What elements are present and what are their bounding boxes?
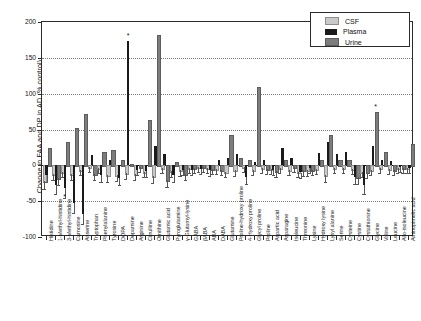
x-tick-mark xyxy=(173,236,174,240)
x-tick-mark xyxy=(73,236,74,240)
x-tick-label: Cystine xyxy=(356,223,362,241)
x-tick-mark xyxy=(118,236,119,240)
legend-swatch-plasma xyxy=(325,29,337,35)
bar-group xyxy=(42,22,414,235)
y-tick-mark xyxy=(38,237,42,238)
x-tick-label: Isoleucine xyxy=(293,217,299,241)
x-tick-label: Glutamine xyxy=(229,216,235,241)
legend-item-plasma: Plasma xyxy=(325,27,409,37)
y-tick-label: -50 xyxy=(0,197,36,204)
x-tick-label: 1-Methyl-histidine xyxy=(57,199,63,241)
x-tick-mark xyxy=(336,236,337,240)
x-tick-label: Dopamine xyxy=(129,216,135,241)
x-tick-label: Lysyl alanine xyxy=(329,210,335,241)
legend-item-urine: Urine xyxy=(325,37,409,47)
x-tick-mark xyxy=(46,236,47,240)
x-tick-mark xyxy=(64,236,65,240)
x-tick-label: Aspartic acid xyxy=(274,210,280,241)
x-tick-label: Cystathionine xyxy=(365,208,371,241)
x-tick-mark xyxy=(100,236,101,240)
bar-urine xyxy=(411,144,415,168)
x-tick-label: βABA xyxy=(202,227,208,241)
x-tick-label: Asparagine xyxy=(283,214,289,241)
x-tick-label: Tyrosine xyxy=(111,221,117,241)
legend-item-csf: CSF xyxy=(325,16,409,26)
x-tick-label: 3-Methyl-histidine xyxy=(66,199,72,241)
x-tick-label: GABA xyxy=(193,226,199,241)
x-tick-mark xyxy=(236,236,237,240)
x-tick-mark xyxy=(372,236,373,240)
x-tick-mark xyxy=(327,236,328,240)
x-tick-mark xyxy=(218,236,219,240)
x-tick-mark xyxy=(300,236,301,240)
x-tick-mark xyxy=(209,236,210,240)
x-tick-label: Arginine xyxy=(138,221,144,241)
x-tick-label: Anserine xyxy=(84,220,90,241)
x-tick-mark xyxy=(109,236,110,240)
x-tick-label: Carnosine xyxy=(75,216,81,241)
x-tick-label: ABA xyxy=(211,230,217,241)
x-tick-mark xyxy=(91,236,92,240)
x-tick-mark xyxy=(345,236,346,240)
x-tick-label: Pyroglutamine xyxy=(175,206,181,241)
x-tick-label: Citrulline xyxy=(147,220,153,241)
x-tick-label: Ornithine xyxy=(156,219,162,241)
x-tick-label: Proline xyxy=(265,224,271,241)
x-tick-label: Proline-hydroxy proline xyxy=(238,186,244,241)
x-tick-label: Hydroxy lysine xyxy=(320,206,326,241)
x-tick-mark xyxy=(191,236,192,240)
x-tick-label: Lysine xyxy=(311,226,317,241)
x-tick-label: γ-Glutamyl-lysine xyxy=(184,200,190,241)
x-tick-mark xyxy=(354,236,355,240)
x-tick-mark xyxy=(55,236,56,240)
legend-label-csf: CSF xyxy=(345,18,359,25)
x-tick-mark xyxy=(291,236,292,240)
x-tick-label: Valine xyxy=(383,226,389,241)
x-tick-label: 4-Hydroxy proline xyxy=(247,199,253,241)
x-tick-label: DOPA xyxy=(120,226,126,241)
y-tick-label: 50 xyxy=(0,125,36,132)
x-tick-mark xyxy=(245,236,246,240)
x-tick-mark xyxy=(318,236,319,240)
x-tick-label: Glutamic acid xyxy=(165,208,171,241)
chart-legend: CSF Plasma Urine xyxy=(310,12,410,47)
x-tick-label: Glycyl proline xyxy=(256,209,262,241)
legend-swatch-urine xyxy=(325,38,339,46)
x-tick-label: Aminopimelic acid xyxy=(410,198,416,241)
y-tick-label: 150 xyxy=(0,53,36,60)
x-tick-mark xyxy=(200,236,201,240)
x-tick-label: Threonine xyxy=(302,217,308,241)
x-tick-label: Cysteine xyxy=(347,220,353,241)
x-tick-label: Phenylalanine xyxy=(102,207,108,241)
legend-swatch-csf xyxy=(325,17,339,25)
x-tick-label: Tryptophan xyxy=(93,214,99,241)
significance-marker: * xyxy=(127,32,130,39)
legend-label-plasma: Plasma xyxy=(343,28,366,35)
x-tick-mark xyxy=(227,236,228,240)
x-tick-label: Glycine xyxy=(374,223,380,241)
x-tick-mark xyxy=(182,236,183,240)
significance-marker: * xyxy=(374,103,377,110)
y-tick-label: 100 xyxy=(0,89,36,96)
error-bar-cap xyxy=(408,173,411,174)
chart-figure: Change in FAA and DP in AD (% control) *… xyxy=(0,0,421,321)
x-tick-label: Leucine xyxy=(392,222,398,241)
legend-label-urine: Urine xyxy=(345,39,362,46)
y-tick-label: 0 xyxy=(0,161,36,168)
x-tick-label: Histidine xyxy=(48,220,54,241)
x-tick-mark xyxy=(309,236,310,240)
y-tick-label: -100 xyxy=(0,233,36,240)
x-tick-mark xyxy=(82,236,83,240)
x-tick-label: DABA xyxy=(220,226,226,241)
x-tick-label: Serine xyxy=(338,225,344,241)
plot-area: *** xyxy=(41,21,413,236)
x-tick-mark xyxy=(363,236,364,240)
x-tick-label: Allo-isoleucine xyxy=(401,206,407,241)
y-tick-label: 200 xyxy=(0,18,36,25)
